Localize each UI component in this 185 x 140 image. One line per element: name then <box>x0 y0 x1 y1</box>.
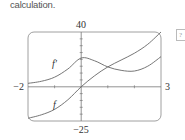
y-min-label: −25 <box>73 124 89 135</box>
f-prime-label: f′ <box>52 58 58 69</box>
x-max-label: 3 <box>165 81 170 92</box>
plot-frame <box>28 32 161 121</box>
x-min-label: −2 <box>13 81 24 92</box>
axis-ticks <box>55 39 135 114</box>
y-max-label: 40 <box>76 19 86 30</box>
curve-f <box>28 32 161 118</box>
curve-f-prime <box>28 57 161 84</box>
chart: 40 −25 −2 3 f′ f <box>0 0 185 140</box>
